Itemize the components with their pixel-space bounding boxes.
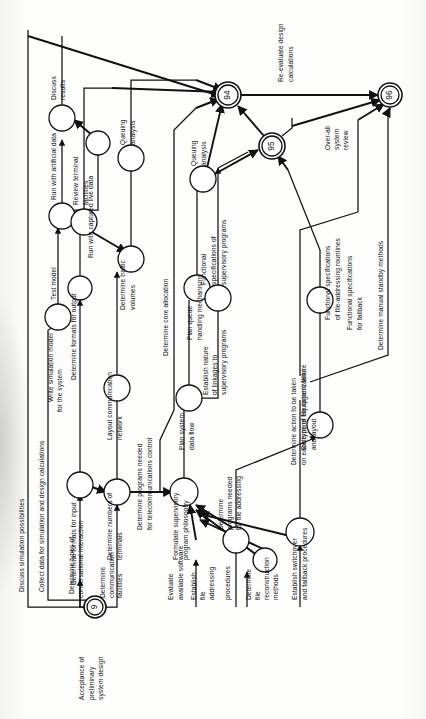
milestone-9[interactable]: 9 <box>84 596 106 618</box>
edge-standby-arrow-96 <box>388 108 390 112</box>
label-evaluate-l2: available software <box>177 545 184 600</box>
edge-captured-to-discuss <box>74 120 92 135</box>
label-plan-dataflow-l2: data flow <box>188 423 195 450</box>
network-diagram: 9 94 95 96 Discuss results <box>0 0 426 719</box>
label-traffic-l2: volumes <box>129 284 136 310</box>
milestone-96[interactable]: 96 <box>378 83 402 107</box>
label-overall-l3: review <box>342 130 349 150</box>
label-terminals-l2: terminals <box>116 532 123 560</box>
label-recon-l3: reconstruction <box>263 557 270 600</box>
label-overall-l2: system <box>333 128 341 150</box>
label-discuss-sim-possibilities: Discuss simulation possibilities <box>18 498 26 592</box>
label-funcspec-sup-l3: supervisory programs <box>220 219 228 285</box>
edge-file-org-layout <box>236 440 310 528</box>
label-fileprog-l2: programs needed <box>226 477 234 530</box>
label-reevaluate-l1: Re-evaluate design <box>277 23 285 82</box>
label-manual-standby: Determine manual standby methods <box>377 240 385 350</box>
label-layout-net-l1: Layout communication <box>106 372 114 440</box>
label-run-artificial: Run with artificial data <box>50 133 57 200</box>
label-comm-fac-l1: Determine <box>99 566 106 598</box>
label-telecom-l2: for telecommunications control <box>146 437 153 530</box>
milestone-95[interactable]: 95 <box>259 133 285 159</box>
label-telecom-l1: Determine programs needed <box>136 443 144 530</box>
label-equipfail-l1: Determine action to be taken <box>290 378 297 465</box>
label-plan-queue-l1: Plan queue <box>186 305 194 340</box>
label-m9-caption-l3: system design <box>97 656 105 700</box>
label-funcspec-file-l1: Functional specifications <box>324 245 332 320</box>
label-core-allocation: Determine core allocation <box>162 279 169 356</box>
milestone-95-number: 95 <box>266 141 276 151</box>
label-funcspec-file-l2: of file-addressing rountines <box>334 237 342 320</box>
label-queuing-a-l1: Queuing <box>119 119 127 145</box>
edge-queuing2-to-94 <box>207 104 222 168</box>
edge-overall-to-96 <box>292 100 380 126</box>
label-estfile-l4: procedures <box>224 565 232 600</box>
edge-95-to-94 <box>238 106 264 136</box>
node-determine-formats-input[interactable] <box>67 472 93 498</box>
label-switchover-l1: Establish switchover <box>291 538 298 600</box>
node-queuing-analysis-a[interactable] <box>118 145 144 171</box>
node-run-captured-live[interactable] <box>86 131 110 155</box>
node-plan-system-data-flow[interactable] <box>176 385 202 411</box>
label-reevaluate-l2: calculations <box>287 46 294 82</box>
label-linkages-l2: of linkages to <box>211 355 219 395</box>
label-plan-dataflow-l1: Plan system <box>178 413 186 450</box>
edge-funcspec-fileaddr-arrow <box>278 156 288 170</box>
label-discuss-results-l2: results <box>59 79 66 100</box>
label-fileprog-l3: for file addressing <box>235 476 243 530</box>
label-conv-types-l1: Determine types of <box>68 537 76 594</box>
label-funcspec-sup-l2: specifications of <box>210 236 218 285</box>
label-fileorg-l2: and layout <box>310 419 318 450</box>
edge-filaddr-to-sup <box>190 505 196 540</box>
edge-fallback-to-96 <box>358 104 384 120</box>
node-discuss-results[interactable] <box>49 105 75 131</box>
label-write-sim-l2: for the system <box>56 369 64 412</box>
node-write-simulation-model[interactable] <box>45 304 71 330</box>
label-estfile-l3: addressing <box>208 567 216 600</box>
diagram-canvas: 9 94 95 96 Discuss results <box>0 0 426 719</box>
label-recon-l1: Determine <box>245 568 252 600</box>
label-write-sim-l1: Write simulation model <box>47 333 54 402</box>
label-fileprog-l1: Determine <box>217 498 224 530</box>
edge-95-overall-1 <box>282 118 292 136</box>
label-m9-caption-l1: Acceptance of <box>78 657 86 700</box>
milestone-9-number: 9 <box>89 604 99 609</box>
label-overall-l1: Over-all <box>324 126 331 150</box>
edge-review-to-traffic <box>92 232 126 252</box>
edge-queuing2-to-95 <box>213 150 258 175</box>
milestone-94-number: 94 <box>222 90 232 100</box>
label-test-model: Test model <box>50 267 57 300</box>
milestone-94[interactable]: 94 <box>215 82 241 108</box>
label-collect-data: Collect data for simulation and design c… <box>38 440 46 592</box>
label-evaluate-l1: Evaluate <box>167 573 174 600</box>
label-formats-output: Determine formats for output <box>70 293 78 380</box>
label-funcspec-fallback-l1: Functional specifications <box>346 255 354 330</box>
label-recon-l4: methods <box>272 573 279 600</box>
label-linkages-l1: Establish nature <box>202 346 209 395</box>
label-estfile-l1: Establish <box>190 572 197 600</box>
milestone-96-number: 96 <box>384 90 394 100</box>
label-comm-fac-l3: facilities <box>116 573 123 598</box>
label-discuss-results-l1: Discuss <box>50 76 57 100</box>
label-conv-types-l2: conversational interaction <box>77 520 84 598</box>
label-equipfail-l2: on each type of equipment failure <box>300 364 308 465</box>
label-queuing-b-l1: Queuing <box>190 140 198 166</box>
label-linkages-l3: supervisory programs <box>220 329 228 395</box>
label-review-terminal-l1: Review terminal <box>72 156 79 205</box>
label-recon-l2: file <box>254 591 261 600</box>
label-traffic-l1: Determine traffic <box>119 259 126 310</box>
label-queuing-a-l2: analysis <box>129 120 137 145</box>
label-funcspec-fallback-l2: for fallback <box>356 296 363 330</box>
label-funcspec-sup-l1: Functional <box>200 253 207 285</box>
label-m9-caption-l2: preliminary <box>88 666 96 700</box>
label-estfile-l2: file <box>199 591 206 600</box>
node-functional-spec-supervisory[interactable] <box>205 285 231 311</box>
label-layout-net-l2: network <box>116 416 123 440</box>
node-queuing-analysis-b[interactable] <box>190 166 216 192</box>
label-switchover-l2: and fallback procedures <box>301 527 309 600</box>
label-review-terminal-l2: facilities <box>82 180 89 205</box>
label-comm-fac-l2: communication <box>108 552 115 598</box>
label-queuing-b-l2: analysis <box>200 141 208 166</box>
edge-funcspec-sup-to-95 <box>218 152 248 168</box>
edge-review-to-94 <box>112 88 222 92</box>
